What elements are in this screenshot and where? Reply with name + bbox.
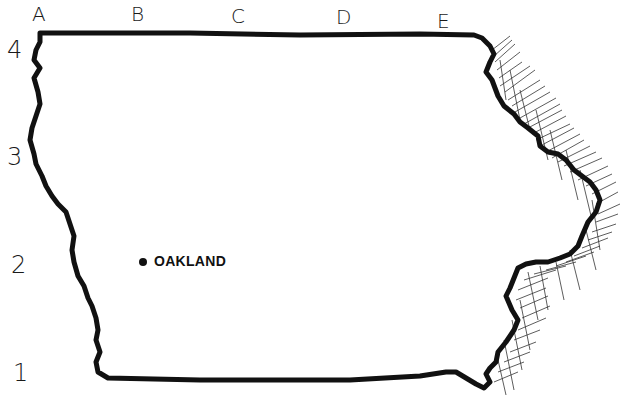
- column-label-c: C: [231, 6, 245, 26]
- row-label-4: 4: [7, 38, 22, 62]
- city-marker-oakland: [139, 258, 147, 266]
- row-label-1: 1: [13, 361, 28, 385]
- column-label-a: A: [32, 4, 46, 24]
- column-label-e: E: [437, 11, 450, 31]
- column-label-d: D: [336, 7, 351, 27]
- row-label-3: 3: [7, 145, 22, 169]
- column-label-b: B: [131, 4, 144, 24]
- river-hatching: [492, 36, 620, 395]
- state-outline: [30, 33, 600, 388]
- city-label-oakland: OAKLAND: [154, 253, 226, 269]
- iowa-map: [0, 0, 625, 405]
- row-label-2: 2: [11, 253, 26, 277]
